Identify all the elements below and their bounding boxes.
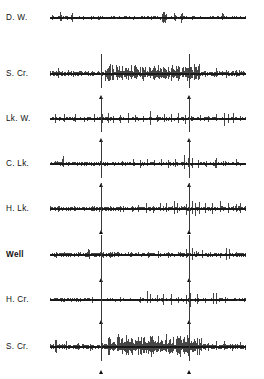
trace-label: D. W.	[6, 13, 50, 22]
trace-row: H. Lk.	[0, 187, 264, 231]
time-marker-line	[189, 140, 190, 178]
trace-label: S. Cr.	[6, 69, 50, 78]
trace-row: S. Cr.	[0, 323, 264, 371]
trace-label: Well	[6, 250, 50, 259]
trace-row: Lk. W.	[0, 99, 264, 139]
time-marker-line	[101, 140, 102, 178]
trace-label: C. Lk.	[6, 159, 50, 168]
waveform-trace	[50, 231, 246, 279]
waveform-trace	[50, 187, 246, 231]
seismogram-figure: D. W.S. Cr.Lk. W.C. Lk.H. Lk.WellH. Cr.S…	[0, 0, 264, 379]
trace-label: H. Lk.	[6, 204, 50, 213]
trace-row: C. Lk.	[0, 144, 264, 184]
trace-row: S. Cr.	[0, 52, 264, 96]
trace-label: H. Cr.	[6, 295, 50, 304]
trace-row: D. W.	[0, 3, 264, 33]
waveform-trace	[50, 323, 246, 371]
time-marker-line	[101, 299, 102, 361]
time-marker-line	[189, 54, 190, 88]
trace-row: H. Cr.	[0, 279, 264, 321]
trace-label: S. Cr.	[6, 342, 50, 351]
arrival-marker-triangle	[99, 370, 103, 374]
trace-label: Lk. W.	[6, 114, 50, 123]
waveform-trace	[50, 52, 246, 96]
waveform-trace	[50, 144, 246, 184]
time-marker-line	[101, 97, 102, 132]
trace-row: Well	[0, 231, 264, 279]
time-marker-line	[101, 54, 102, 88]
waveform-trace	[50, 99, 246, 139]
time-marker-line	[101, 183, 102, 231]
time-marker-line	[189, 183, 190, 231]
time-marker-line	[189, 97, 190, 132]
waveform-trace	[50, 3, 246, 33]
time-marker-line	[189, 299, 190, 361]
arrival-marker-triangle	[187, 370, 191, 374]
waveform-trace	[50, 279, 246, 321]
